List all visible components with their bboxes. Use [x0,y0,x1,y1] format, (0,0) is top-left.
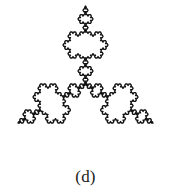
figure-caption: (d) [0,166,171,188]
figure-container: (d) [0,0,171,193]
koch-snowflake-figure [0,0,171,168]
koch-snowflake-svg [0,0,171,168]
